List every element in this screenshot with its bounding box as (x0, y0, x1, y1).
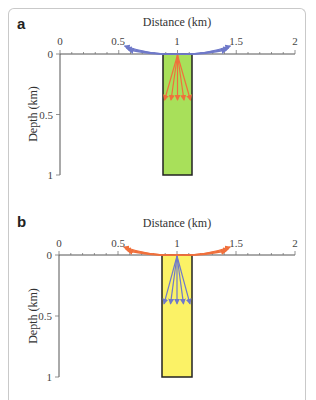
ray-arrows (124, 247, 230, 304)
x-tick-label: 0.5 (111, 35, 125, 47)
panel-a: a Distance (km) Depth (km) 0 0.5 1 1.5 2… (17, 15, 298, 181)
y-tick-labels: 0 0.5 1 (38, 249, 52, 383)
x-tick-label: 2 (292, 35, 298, 47)
y-tick-label: 0 (48, 48, 54, 60)
panel-b: b Distance (km) Depth (km) 0 0.5 1 1.5 2… (17, 213, 298, 383)
y-tick-labels: 0 0.5 1 (39, 48, 53, 181)
x-axis-title: Distance (km) (143, 216, 211, 230)
panel-label-a: a (17, 15, 26, 32)
x-tick-label: 0 (56, 237, 62, 249)
y-tick-label: 1 (48, 169, 54, 181)
x-tick-label: 1 (174, 237, 180, 249)
y-axis-title: Depth (km) (26, 86, 40, 142)
y-tick-label: 1 (47, 371, 53, 383)
x-tick-labels: 0 0.5 1 1.5 2 (57, 35, 298, 47)
y-tick-label: 0.5 (39, 109, 53, 121)
x-tick-label: 0.5 (111, 237, 125, 249)
panel-label-b: b (17, 213, 26, 230)
x-tick-label: 1.5 (229, 237, 243, 249)
y-tick-label: 0.5 (38, 310, 52, 322)
x-axis-title: Distance (km) (143, 15, 211, 29)
x-tick-label: 0 (57, 35, 63, 47)
x-tick-labels: 0 0.5 1 1.5 2 (56, 237, 298, 249)
x-tick-label: 2 (292, 237, 298, 249)
y-tick-label: 0 (47, 249, 53, 261)
x-tick-label: 1 (174, 35, 180, 47)
x-tick-label: 1.5 (229, 35, 243, 47)
